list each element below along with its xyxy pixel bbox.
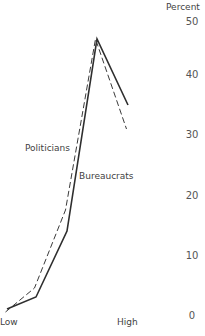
series-label-bureaucrats: Bureaucrats xyxy=(79,172,134,181)
y-tick-50: 50 xyxy=(180,17,204,27)
y-tick-40: 40 xyxy=(180,70,204,80)
line-chart: Percent 50 40 30 20 10 0 Politicians Bur… xyxy=(0,0,205,336)
series-label-politicians: Politicians xyxy=(25,144,70,153)
y-tick-20: 20 xyxy=(180,191,204,201)
x-label-high: High xyxy=(117,318,138,327)
y-tick-0: 0 xyxy=(180,311,204,321)
x-label-low: Low xyxy=(0,318,18,327)
plot-area xyxy=(0,0,205,336)
y-tick-30: 30 xyxy=(180,130,204,140)
y-axis-title: Percent xyxy=(166,3,200,12)
y-tick-10: 10 xyxy=(180,251,204,261)
